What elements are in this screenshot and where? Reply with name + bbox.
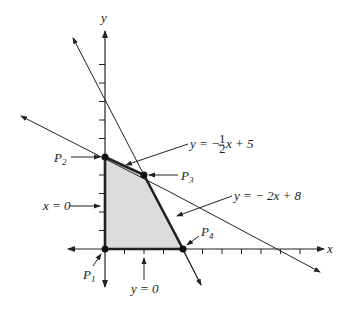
pointer-arrow	[93, 254, 101, 266]
equation-label-two: y = − 2x + 8	[232, 188, 302, 203]
vertex-p4	[180, 246, 187, 253]
fraction-denominator: 2	[219, 141, 226, 156]
pointer-arrow	[187, 236, 199, 245]
vertex-p2	[102, 154, 109, 161]
point-label-p3: P3	[180, 168, 194, 185]
equation-label-half-suffix: x + 5	[225, 136, 254, 151]
diagram-canvas: y x y = − 1 2 x + 5 y = − 2x + 8 x = 0 y…	[0, 0, 349, 310]
point-label-p1: P1	[82, 267, 95, 284]
vertex-p1	[102, 246, 109, 253]
point-label-p4: P4	[200, 224, 214, 241]
pointer-arrow	[126, 144, 188, 165]
feasible-region-diagram: y x y = − 1 2 x + 5 y = − 2x + 8 x = 0 y…	[0, 0, 349, 310]
equation-label-half: y = −	[188, 136, 220, 151]
pointer-arrow	[177, 196, 232, 216]
constraint-y-zero-label: y = 0	[129, 281, 159, 296]
feasible-region	[105, 157, 183, 249]
vertex-p3	[141, 172, 148, 179]
y-axis-label: y	[99, 10, 107, 25]
x-axis-label: x	[326, 241, 333, 256]
line-y-neghalfx-plus5	[170, 192, 320, 272]
constraint-x-zero-label: x = 0	[42, 198, 71, 213]
point-label-p2: P2	[53, 150, 67, 167]
